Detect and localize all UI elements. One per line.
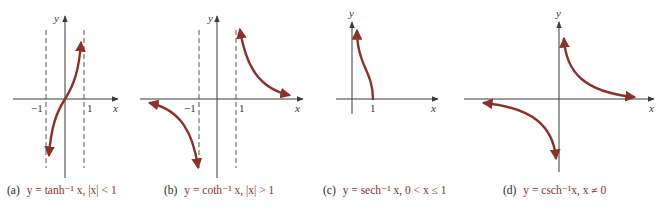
- y-axis-label: y: [348, 7, 354, 19]
- tick-label-neg1: −1: [184, 102, 196, 114]
- tick-label-1: 1: [87, 102, 93, 114]
- y-axis-label: y: [555, 7, 561, 19]
- caption-equation: y = tanh⁻¹ x, |x| < 1: [27, 184, 117, 196]
- caption-tag: (c): [323, 184, 336, 196]
- csch-inverse-left-branch: [484, 103, 556, 158]
- caption-equation: y = csch⁻¹x, x ≠ 0: [523, 184, 606, 196]
- caption-tag: (b): [164, 184, 177, 196]
- graph-d: y x: [464, 7, 654, 172]
- y-axis-label: y: [207, 12, 213, 24]
- caption-b: (b) y = coth⁻¹ x, |x| > 1: [164, 183, 274, 197]
- graph-b: y x −1 1: [140, 12, 303, 178]
- caption-c: (c) y = sech⁻¹ x, 0 < x ≤ 1: [323, 183, 447, 197]
- graph-c: y x 1: [336, 7, 438, 114]
- tick-label-1: 1: [370, 102, 376, 114]
- caption-d: (d) y = csch⁻¹x, x ≠ 0: [503, 183, 606, 197]
- caption-a: (a) y = tanh⁻¹ x, |x| < 1: [7, 183, 117, 197]
- caption-equation: y = coth⁻¹ x, |x| > 1: [184, 184, 274, 196]
- csch-inverse-right-branch: [564, 39, 634, 97]
- y-axis-label: y: [53, 12, 59, 24]
- sech-inverse-curve: [357, 31, 373, 99]
- caption-tag: (a): [7, 184, 20, 196]
- x-axis-label: x: [112, 102, 118, 114]
- coth-inverse-right-branch: [240, 30, 289, 95]
- x-axis-label: x: [430, 102, 436, 114]
- x-axis-label: x: [648, 102, 654, 114]
- tick-label-1: 1: [239, 102, 245, 114]
- graph-a: y x −1 1: [13, 12, 118, 178]
- caption-tag: (d): [503, 184, 516, 196]
- tick-label-neg1: −1: [31, 102, 43, 114]
- figure-canvas: y x −1 1 y x −1 1 y x 1 y x: [0, 0, 664, 207]
- caption-equation: y = sech⁻¹ x, 0 < x ≤ 1: [343, 184, 447, 196]
- x-axis-label: x: [294, 102, 300, 114]
